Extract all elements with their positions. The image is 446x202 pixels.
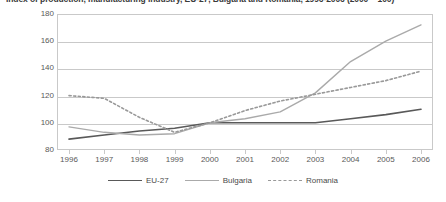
y-axis-tick-label: 80 — [6, 146, 54, 154]
chart-title: Index of production, manufacturing indus… — [6, 0, 444, 4]
series-line-bulgaria — [69, 25, 421, 135]
x-axis-tick-mark — [175, 150, 176, 154]
line-chart: Index of production, manufacturing indus… — [0, 0, 446, 202]
x-axis-tick-label: 2006 — [399, 155, 443, 164]
legend-label-eu-27: EU-27 — [146, 176, 169, 185]
x-axis-tick-mark — [280, 150, 281, 154]
y-axis: 80100120140160180 — [0, 0, 54, 202]
y-axis-tick-label: 100 — [6, 119, 54, 127]
legend-swatch-romania — [268, 177, 302, 185]
x-axis-tick-mark — [315, 150, 316, 154]
y-axis-tick-label: 120 — [6, 92, 54, 100]
chart-legend: EU-27 Bulgaria Romania — [0, 176, 446, 185]
x-axis-tick-mark — [351, 150, 352, 154]
x-axis-tick-mark — [245, 150, 246, 154]
series-layer — [57, 14, 433, 150]
legend-item-romania: Romania — [268, 176, 338, 185]
legend-swatch-bulgaria — [185, 177, 219, 185]
x-axis-tick-mark — [139, 150, 140, 154]
legend-swatch-eu-27 — [108, 177, 142, 185]
x-axis-tick-mark — [210, 150, 211, 154]
legend-item-eu-27: EU-27 — [108, 176, 169, 185]
x-axis-tick-mark — [386, 150, 387, 154]
legend-label-bulgaria: Bulgaria — [223, 176, 252, 185]
x-axis-tick-mark — [69, 150, 70, 154]
y-axis-tick-label: 140 — [6, 64, 54, 72]
y-axis-tick-label: 180 — [6, 10, 54, 18]
x-axis-tick-mark — [421, 150, 422, 154]
series-line-eu-27 — [69, 109, 421, 139]
legend-label-romania: Romania — [306, 176, 338, 185]
legend-item-bulgaria: Bulgaria — [185, 176, 252, 185]
x-axis-tick-mark — [104, 150, 105, 154]
y-axis-tick-label: 160 — [6, 37, 54, 45]
